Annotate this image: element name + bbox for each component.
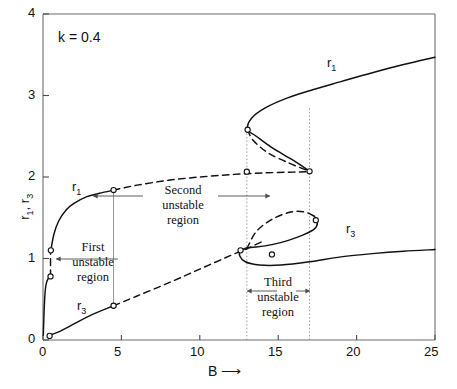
first-unstable-region-label: First unstable region [62, 240, 124, 284]
third-unstable-line-1: Third [242, 275, 314, 290]
third-unstable-line-2: unstable [242, 290, 314, 305]
curve-r3-loop-lower [239, 248, 435, 266]
x-axis-label: B ⟶ [208, 364, 242, 378]
marker-loop-mid [269, 252, 274, 257]
x-tick-25: 25 [424, 345, 438, 358]
x-tick-20: 20 [346, 345, 360, 358]
figure-bifurcation-diagram: 0 5 10 15 20 25 0 1 2 3 4 k = 0.4 r1 r1 … [0, 0, 457, 389]
first-unstable-line-2: unstable [62, 255, 124, 270]
marker-first-unstable-high [48, 248, 53, 253]
marker-loop-right [313, 218, 318, 223]
y-tick-4: 4 [28, 6, 35, 19]
curve-label-r3-left: r3 [77, 299, 86, 316]
first-unstable-line-1: First [62, 240, 124, 255]
marker-loop-left [238, 248, 243, 253]
third-unstable-line-3: region [242, 305, 314, 320]
x-tick-0: 0 [39, 345, 46, 358]
marker-upper-fold [245, 127, 250, 132]
marker-b17-upper [307, 169, 312, 174]
x-tick-5: 5 [114, 345, 121, 358]
y-tick-3: 3 [28, 88, 35, 101]
curve-label-r1-left: r1 [72, 180, 81, 197]
marker-b13-upper [244, 169, 249, 174]
first-unstable-line-3: region [62, 270, 124, 285]
curve-label-r1-right: r1 [327, 56, 336, 73]
marker-origin [47, 333, 52, 338]
plot-canvas [0, 0, 457, 389]
curve-group [43, 57, 435, 336]
y-axis-label: r1, r3 [12, 150, 38, 270]
curve-r1-upper-fold-branch [247, 57, 435, 171]
x-tick-10: 10 [190, 345, 204, 358]
x-axis-label-text: B [208, 363, 217, 379]
marker-first-unstable-low [48, 274, 53, 279]
second-unstable-line-3: region [151, 213, 215, 228]
axis-ticks [43, 14, 435, 340]
curve-label-r3-right: r3 [346, 222, 355, 239]
x-axis-arrow: ⟶ [221, 363, 242, 379]
second-unstable-line-2: unstable [151, 198, 215, 213]
second-unstable-region-label: Second unstable region [151, 183, 215, 227]
second-unstable-line-1: Second [151, 183, 215, 198]
marker-b45-r3 [111, 303, 116, 308]
third-unstable-region-label: Third unstable region [242, 275, 314, 319]
y-axis-label-text: r1, r3 [17, 165, 35, 249]
curve-r1-stable-lower-left [43, 276, 50, 335]
parameter-annotation: k = 0.4 [58, 30, 100, 44]
marker-b45-r1 [111, 187, 116, 192]
x-tick-15: 15 [268, 345, 282, 358]
axes-frame [43, 14, 435, 340]
y-tick-0: 0 [28, 332, 35, 345]
